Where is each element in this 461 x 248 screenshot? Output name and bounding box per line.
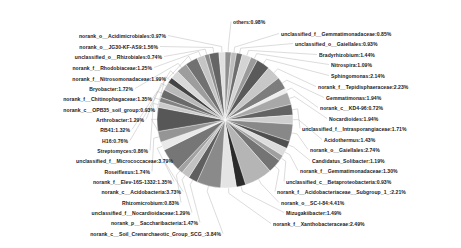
pie-slice-label: norank_f__Rhodobiaceae:1.25% [0,65,152,72]
pie-slice-label: norank_o__Gaiellales:2.74% [310,147,380,154]
pie-slice-label: unclassified_c__Betaproteobacteria:0.93% [286,179,391,186]
pie-slice-label: Nitrospira:1.09% [331,62,372,69]
leader-line [259,179,279,202]
pie-slice-label: Bryobacter:1.72% [0,86,133,93]
pie-slice-label: Acidothermus:1.43% [324,137,375,144]
pie-slice-label: Arthrobacter:1.29% [0,117,144,124]
pie-slice-label: unclassified_o__Rhizobiales:0.74% [0,54,162,61]
pie-slice-label: Roseiflexus:1.74% [0,169,150,176]
pie-slice-label: norank_f__Acidobacteriaceae__Subgroup_1_… [277,189,406,196]
pie-slice-label: unclassified_f__Nocardioidaceae:1.29% [0,210,190,217]
pie-slice-label: norank_p__Saccharibacteria:1.47% [0,220,198,227]
pie-slice-label: unclassified_f__Intrasporangiaceae:1.71% [302,126,407,133]
pie-slice-label: Nocardioides:1.94% [329,116,378,123]
pie-slice-label: Streptomyces:0.86% [0,148,148,155]
pie-slice-label: norank_o__JG30-KF-AS9:1.56% [0,44,158,51]
pie-slice-label: unclassified_f__Micrococcaceae:3.79% [0,158,173,165]
leader-line [168,36,222,53]
pie-slice-label: norank_c__Acidobacteria:3.73% [0,189,181,196]
pie-slice-label: norank_o__SC-I-84:4.41% [281,200,344,207]
leader-line [285,152,298,170]
leader-line [229,188,271,224]
pie-slice-label: unclassified_o__Gaiellales:0.93% [295,41,378,48]
pie-slices-group [157,52,293,188]
pie-chart-figure: others:0.98%unclassified_f__Gemmatimonad… [0,0,461,248]
pie-slice-label: norank_f__Chitinophagaceae:1.35% [0,96,152,103]
pie-slice-label: unclassified_f__Gemmatimonadaceae:0.85% [281,31,391,38]
pie-slice-label: norank_f__Nitrosomonadaceae:1.99% [0,76,166,83]
pie-slice-label: Gemmatimonas:1.94% [326,95,381,102]
leader-line [182,175,192,212]
pie-slice-label: Mizugakiibacter:1.49% [286,210,341,217]
pie-slice-label: H16:0.76% [0,138,128,145]
pie-slice-label: RB41:1.32% [0,127,130,134]
pie-slice-label: norank_f__Elev-16S-1332:1.35% [0,179,172,186]
leader-line [292,133,308,150]
pie-slice-label: norank_c__OPB35_soil_group:0.93% [0,107,155,114]
pie-slice-label: norank_c__Soil_Crenarchaeotic_Group_SCG_… [0,231,221,238]
pie-slice-label: others:0.98% [233,19,265,26]
leader-line [190,180,200,223]
leader-line [254,54,329,65]
pie-slice-label: norank_f__Tepidisphaeraceae:2.23% [318,84,408,91]
pie-slice-label: norank_f__Xanthobacteraceae:2.49% [273,221,365,228]
leader-line [234,34,279,53]
leader-line [247,50,317,55]
pie-slice-label: norank_c__KD4-96:0.72% [320,105,383,112]
leader-line [207,186,223,234]
leader-line [152,137,159,172]
pie-slice-label: norank_o__Acidimicrobiales:0.97% [0,33,166,40]
pie-slice-label: Bradyrhizobium:1.44% [319,52,375,59]
leader-line [228,22,231,53]
pie-slice-label: Sphingomonas:2.14% [331,73,385,80]
leader-line [292,109,300,129]
leader-line [240,44,293,54]
pie-slice-label: Candidatus_Solibacter:1.19% [312,158,385,165]
pie-slice-label: norank_f__Gemmatimonadaceae:1.30% [300,168,398,175]
pie-slice-label: Rhizomicrobium:0.83% [0,200,179,207]
